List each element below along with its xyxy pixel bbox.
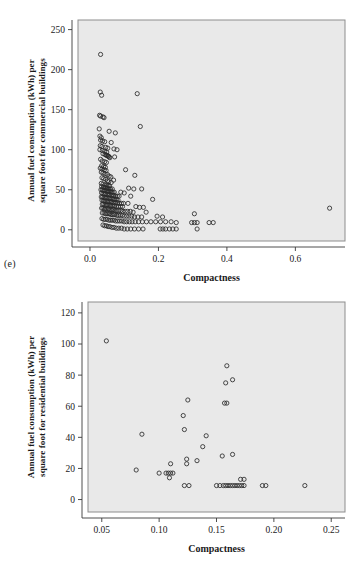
x-axis-title: Compactness — [188, 543, 245, 554]
y-tick-label: 80 — [66, 371, 76, 381]
y-axis-title-line1: Annual fuel consumption (kWh) per — [26, 59, 36, 201]
scatter-figure-residential: 0.050.100.150.200.25020406080100120Compa… — [0, 292, 359, 584]
y-tick-label: 20 — [66, 464, 76, 474]
scatter-figure-commercial: 0.00.20.40.6050100150200250CompactnessAn… — [0, 0, 359, 292]
x-tick-label: 0.6 — [289, 254, 301, 264]
y-axis-title-line1: Annual fuel consumption (kWh) per — [26, 336, 36, 478]
x-tick-label: 0.15 — [208, 525, 225, 535]
figure-page: 0.00.20.40.6050100150200250CompactnessAn… — [0, 0, 359, 584]
y-tick-label: 250 — [51, 25, 66, 35]
y-tick-label: 0 — [70, 495, 75, 505]
x-tick-label: 0.2 — [153, 254, 165, 264]
y-tick-label: 100 — [61, 339, 76, 349]
x-tick-label: 0.0 — [84, 254, 96, 264]
panel-label-e: (e) — [4, 258, 16, 269]
y-tick-label: 120 — [61, 308, 76, 318]
y-tick-label: 150 — [51, 105, 66, 115]
y-tick-label: 200 — [51, 65, 66, 75]
scatter-plot-residential: 0.050.100.150.200.25020406080100120Compa… — [0, 292, 359, 584]
y-tick-label: 60 — [66, 402, 76, 412]
x-tick-label: 0.25 — [323, 525, 340, 535]
y-tick-label: 0 — [60, 225, 65, 235]
y-axis-title-line2: square foot for commercial buildings — [37, 58, 47, 203]
x-tick-label: 0.4 — [221, 254, 233, 264]
y-tick-label: 40 — [66, 433, 76, 443]
y-axis-title-line2: square foot for residential buildings — [37, 337, 47, 477]
x-tick-label: 0.05 — [93, 525, 110, 535]
y-tick-label: 100 — [51, 145, 66, 155]
y-tick-label: 50 — [56, 185, 66, 195]
x-tick-label: 0.10 — [151, 525, 168, 535]
x-axis-title: Compactness — [183, 272, 240, 283]
plot-background — [88, 302, 345, 512]
scatter-plot-commercial: 0.00.20.40.6050100150200250CompactnessAn… — [0, 0, 359, 292]
x-tick-label: 0.20 — [266, 525, 283, 535]
